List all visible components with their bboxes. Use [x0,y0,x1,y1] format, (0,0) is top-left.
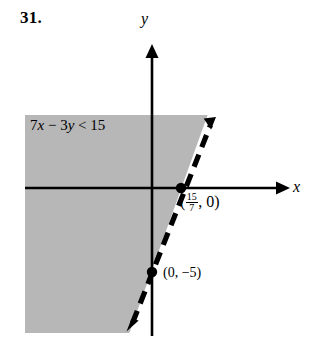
inequality-coef-y: 3 [60,117,68,133]
point-dot-y-intercept [147,267,157,277]
point-label-x-intercept: (157, 0) [180,192,220,213]
inequality-var-y: y [68,117,75,133]
x-axis-label: x [293,178,300,196]
graph-canvas [0,0,318,364]
point-label-remainder: , 0) [198,193,219,210]
y-axis-label: y [141,10,148,28]
fraction-fifteen-sevenths: 157 [186,192,198,213]
shaded-solution-region [25,115,287,333]
inequality-annotation: 7x − 3y < 15 [30,117,105,134]
fraction-numerator: 15 [186,192,198,202]
inequality-minus: − [48,117,56,133]
paren-open: ( [180,193,185,210]
inequality-constant: 15 [90,117,105,133]
point-label-y-intercept: (0, −5) [163,265,201,281]
inequality-relation: < [78,117,86,133]
inequality-var-x: x [38,117,45,133]
fraction-denominator: 7 [186,202,198,213]
inequality-coef-x: 7 [30,117,38,133]
